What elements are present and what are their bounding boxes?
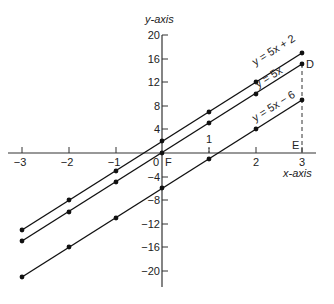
line-label-5x-plus-2: y = 5x + 2 [250,32,297,68]
y-tick-label: 20 [148,29,160,41]
y-tick-label: −20 [141,265,160,277]
point-e-label: E [292,139,299,151]
y-tick-label: 12 [148,76,160,88]
point-f-label: F [165,156,172,168]
x-tick-label-one: 1 [206,133,212,145]
y-tick-label: 8 [154,100,160,112]
y-tick-label: 4 [154,123,160,135]
x-tick-labels: −3 −2 −1 2 3 [14,156,305,168]
y-tick-label: −16 [141,241,160,253]
linear-functions-graph: −3 −2 −1 2 3 1 20 16 12 8 4 −4 −8 −12 −1… [0,0,334,304]
y-tick-label: −4 [147,171,160,183]
y-axis-label: y-axis [144,13,174,25]
x-tick-label: −1 [108,156,121,168]
x-tick-label: 2 [253,156,259,168]
x-axis-label: x-axis [282,167,312,179]
point-d-label: D [306,58,314,70]
y-tick-label: 16 [148,53,160,65]
y-tick-label: −12 [141,218,160,230]
x-tick-label: −3 [14,156,27,168]
x-tick-label: −2 [61,156,74,168]
